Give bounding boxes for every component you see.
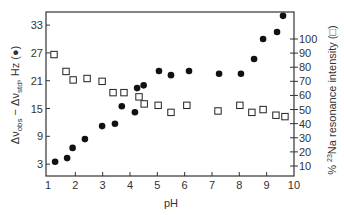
y-tick-label: 21 (31, 75, 43, 87)
y2-tick-label: 70 (299, 75, 311, 87)
y2-tick-label: 50 (299, 104, 311, 116)
data-point-open-square (215, 108, 221, 114)
y-axis-left-title: Δνobs − Δνstd, Hz (●) (9, 46, 24, 144)
data-point-open-square (51, 51, 57, 57)
data-point-open-square (273, 112, 279, 118)
data-point-filled (140, 82, 147, 89)
data-point-filled (118, 103, 125, 110)
data-point-filled (52, 158, 59, 165)
data-point-filled (134, 85, 141, 92)
data-point-filled (274, 29, 281, 36)
x-axis-title: pH (164, 197, 178, 209)
data-point-open-square (168, 109, 174, 115)
data-point-filled (251, 56, 258, 63)
x-tick-label: 9 (264, 179, 270, 191)
plot-frame (46, 12, 294, 176)
data-point-open-square (249, 109, 255, 115)
y-axis-right-title: % 23Na resonance intensity (□) (326, 25, 338, 175)
data-point-open-square (70, 77, 76, 83)
x-tick-label: 7 (209, 179, 215, 191)
data-point-open-square (141, 101, 147, 107)
x-tick-label: 6 (182, 179, 188, 191)
y2-tick-label: 10 (299, 160, 311, 172)
y-tick-label: 9 (37, 130, 43, 142)
y2-tick-label: 40 (299, 118, 311, 130)
x-tick-label: 10 (288, 179, 300, 191)
data-point-open-square (99, 78, 105, 84)
data-point-filled (238, 70, 245, 77)
y2-tick-label: 90 (299, 47, 311, 59)
scatter-chart: 12345678910 3915212733 10203040506070809… (0, 0, 344, 215)
data-point-filled (186, 68, 193, 75)
data-point-open-square (136, 94, 142, 100)
data-point-open-square (237, 102, 243, 108)
x-tick-label: 8 (236, 179, 242, 191)
data-point-open-square (121, 89, 127, 95)
data-point-open-square (282, 113, 288, 119)
y2-tick-label: 100 (299, 33, 317, 45)
x-tick-label: 3 (100, 179, 106, 191)
data-point-open-square (184, 102, 190, 108)
data-point-filled (82, 136, 89, 143)
data-point-open-square (63, 68, 69, 74)
data-point-filled (216, 70, 223, 77)
x-tick-label: 2 (72, 179, 78, 191)
series-frequency-shift (52, 13, 287, 166)
y2-tick-label: 80 (299, 61, 311, 73)
y-axis-left: 3915212733 (31, 19, 50, 170)
data-point-open-square (260, 106, 266, 112)
data-point-open-square (155, 102, 161, 108)
data-point-filled (69, 145, 76, 152)
data-point-filled (112, 120, 119, 127)
y-tick-label: 33 (31, 19, 43, 31)
y-tick-label: 27 (31, 47, 43, 59)
data-point-filled (132, 109, 139, 116)
data-point-open-square (84, 75, 90, 81)
x-axis: 12345678910 (45, 172, 300, 191)
data-point-open-square (110, 89, 116, 95)
x-tick-label: 1 (45, 179, 51, 191)
y-tick-label: 15 (31, 103, 43, 115)
data-point-filled (280, 13, 287, 20)
data-point-filled (156, 68, 163, 75)
data-point-filled (64, 155, 71, 162)
y2-tick-label: 60 (299, 89, 311, 101)
data-point-filled (168, 72, 175, 79)
x-tick-label: 4 (127, 179, 133, 191)
y-tick-label: 3 (37, 158, 43, 170)
y2-tick-label: 30 (299, 132, 311, 144)
y2-tick-label: 20 (299, 146, 311, 158)
x-tick-label: 5 (154, 179, 160, 191)
data-point-filled (260, 36, 267, 43)
data-point-filled (99, 123, 106, 130)
